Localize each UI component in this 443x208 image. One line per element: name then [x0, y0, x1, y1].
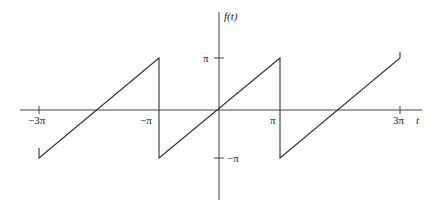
y-axis-label: f(t): [224, 10, 238, 23]
y-tick-label-pi: π: [203, 52, 209, 64]
x-tick-label-neg3pi: −3π: [28, 114, 46, 126]
y-tick-label-negpi: −π: [227, 152, 239, 164]
x-tick-label-3pi: 3π: [393, 114, 405, 126]
chart-canvas: −3π −π π 3π t π −π f(t): [0, 0, 443, 208]
sawtooth-chart: −3π −π π 3π t π −π f(t): [0, 0, 443, 208]
x-tick-label-negpi: −π: [140, 114, 152, 126]
x-tick-label-pi: π: [270, 114, 276, 126]
x-axis-label: t: [416, 114, 420, 126]
